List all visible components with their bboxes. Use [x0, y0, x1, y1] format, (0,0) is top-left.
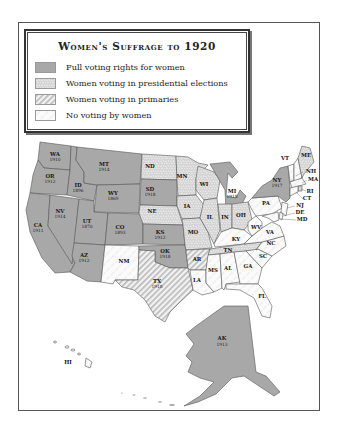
- svg-text:1913: 1913: [216, 342, 227, 347]
- svg-text:VT: VT: [280, 155, 289, 161]
- svg-text:MO: MO: [188, 229, 199, 235]
- svg-text:MD: MD: [297, 216, 308, 222]
- svg-text:1917: 1917: [271, 183, 282, 188]
- svg-text:NH: NH: [306, 168, 316, 174]
- svg-text:NM: NM: [119, 258, 130, 264]
- svg-text:1918: 1918: [159, 254, 170, 259]
- state-NE[interactable]: [139, 205, 183, 225]
- svg-text:PA: PA: [262, 200, 271, 206]
- svg-text:1918: 1918: [151, 284, 162, 289]
- svg-text:AL: AL: [223, 265, 232, 271]
- svg-text:ME: ME: [301, 152, 311, 158]
- legend-item-presidential: Women voting in presidential elections: [35, 77, 228, 89]
- svg-text:AR: AR: [192, 256, 202, 262]
- legend-title: Women's Suffrage to 1920: [26, 40, 248, 52]
- svg-text:1870: 1870: [81, 224, 92, 229]
- aleutian-islands: [121, 392, 175, 406]
- svg-text:RI: RI: [306, 188, 313, 194]
- state-CT[interactable]: [290, 186, 298, 196]
- svg-text:IA: IA: [184, 203, 192, 209]
- legend-label: No voting by women: [66, 110, 152, 120]
- svg-text:TN: TN: [224, 247, 233, 253]
- svg-text:NJ: NJ: [296, 202, 304, 209]
- svg-text:MN: MN: [177, 173, 188, 179]
- state-AK[interactable]: [184, 306, 280, 406]
- svg-text:VA: VA: [265, 229, 275, 235]
- svg-text:CT: CT: [303, 195, 311, 201]
- svg-text:ND: ND: [145, 163, 155, 169]
- legend-item-none: No voting by women: [35, 109, 152, 121]
- svg-text:WV: WV: [250, 224, 262, 230]
- svg-text:1914: 1914: [54, 214, 65, 219]
- svg-text:LA: LA: [193, 277, 202, 283]
- swatch-primaries: [35, 94, 56, 105]
- svg-text:DE: DE: [296, 209, 305, 215]
- svg-text:SC: SC: [259, 253, 268, 259]
- legend-label: Full voting rights for women: [66, 62, 185, 72]
- legend-label: Women voting in primaries: [66, 94, 178, 104]
- svg-text:1911: 1911: [32, 228, 43, 233]
- swatch-presidential: [35, 78, 56, 89]
- svg-text:HI: HI: [64, 359, 72, 365]
- svg-text:1910: 1910: [49, 157, 60, 162]
- state-RI[interactable]: [298, 186, 302, 191]
- svg-text:MA: MA: [308, 176, 319, 182]
- svg-text:NE: NE: [147, 208, 156, 214]
- svg-text:1918: 1918: [144, 192, 155, 197]
- svg-text:IN: IN: [221, 214, 229, 220]
- svg-text:1893: 1893: [114, 230, 125, 235]
- state-NM[interactable]: [101, 245, 139, 284]
- svg-text:NC: NC: [266, 240, 276, 246]
- state-HI[interactable]: [54, 341, 93, 368]
- legend-label: Women voting in presidential elections: [66, 78, 228, 88]
- svg-text:1918: 1918: [226, 194, 237, 199]
- svg-text:IL: IL: [207, 214, 214, 220]
- state-IA[interactable]: [177, 195, 204, 219]
- svg-text:1914: 1914: [98, 167, 109, 172]
- svg-text:1896: 1896: [72, 188, 83, 193]
- svg-text:1912: 1912: [154, 235, 165, 240]
- legend-item-primaries: Women voting in primaries: [35, 93, 178, 105]
- svg-text:KY: KY: [232, 236, 241, 242]
- svg-text:FL: FL: [258, 293, 266, 299]
- svg-text:GA: GA: [244, 263, 254, 269]
- state-MT[interactable]: [76, 147, 142, 185]
- svg-text:WI: WI: [199, 181, 209, 187]
- svg-text:OH: OH: [236, 212, 246, 218]
- swatch-full: [35, 62, 56, 73]
- svg-text:1912: 1912: [78, 258, 89, 263]
- swatch-none: [35, 110, 56, 121]
- svg-text:MS: MS: [208, 267, 218, 273]
- legend-box: Women's Suffrage to 1920 Full voting rig…: [24, 29, 250, 133]
- svg-text:1912: 1912: [44, 179, 55, 184]
- svg-text:AK: AK: [217, 335, 227, 341]
- svg-text:1869: 1869: [107, 196, 118, 201]
- legend-item-full: Full voting rights for women: [35, 61, 185, 73]
